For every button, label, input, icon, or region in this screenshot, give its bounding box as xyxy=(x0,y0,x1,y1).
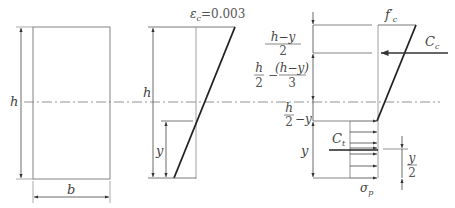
fc-label: f′c xyxy=(384,7,398,24)
strain-profile-line xyxy=(174,27,235,178)
svg-text:h−y: h−y xyxy=(271,30,296,44)
svg-text:y: y xyxy=(408,151,416,165)
svg-text:3: 3 xyxy=(288,76,296,90)
svg-text:−y: −y xyxy=(295,112,312,126)
beam-stress-strain-diagram: h b εc=0.003 h y f′c xyxy=(0,0,455,208)
dim2-expression: h 2 − (h−y) 3 xyxy=(254,61,309,90)
strain-height-label: h xyxy=(143,85,151,100)
strain-label: εc=0.003 xyxy=(190,7,245,23)
strain-depth-label: y xyxy=(155,143,164,158)
cc-label: Cc xyxy=(425,34,440,51)
dim1-fraction: h−y 2 xyxy=(265,30,301,58)
svg-text:2: 2 xyxy=(255,76,263,90)
svg-text:(h−y): (h−y) xyxy=(275,61,309,75)
section-height-label: h xyxy=(10,94,18,109)
stress-profile-line xyxy=(377,25,416,121)
dim4-label: y xyxy=(300,143,309,158)
section-width-label: b xyxy=(67,182,75,197)
svg-text:2: 2 xyxy=(285,115,293,129)
half-y-fraction: y 2 xyxy=(407,151,417,180)
dim3-expression: h 2 −y xyxy=(284,101,312,129)
svg-text:2: 2 xyxy=(279,44,287,58)
svg-text:h: h xyxy=(255,61,263,75)
section-rectangle xyxy=(33,27,110,179)
sigma-label: σp xyxy=(360,181,373,197)
svg-text:2: 2 xyxy=(408,166,416,180)
ct-label: Ct xyxy=(332,131,346,148)
cross-section: h b xyxy=(10,27,110,203)
strain-diagram: εc=0.003 h y xyxy=(143,7,245,179)
svg-text:h: h xyxy=(285,101,293,115)
